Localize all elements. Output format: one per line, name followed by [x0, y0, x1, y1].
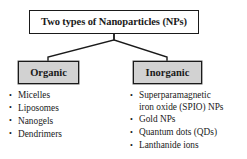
organic-item-list: Micelles Liposomes Nanogels Dendrimers [9, 90, 114, 142]
category-box-inorganic: Inorganic [133, 61, 202, 84]
list-item: Micelles [9, 90, 114, 102]
root-node-label: Two types of Nanoparticles (NPs) [41, 16, 187, 28]
inorganic-item-list: Superparamagnetic iron oxide (SPIO) NPs … [130, 90, 245, 153]
list-item: Nanogels [9, 116, 114, 128]
nanoparticle-classification-diagram: Two types of Nanoparticles (NPs) Organic… [0, 0, 247, 159]
category-label-organic: Organic [30, 67, 67, 79]
category-label-inorganic: Inorganic [146, 67, 190, 79]
list-item: Liposomes [9, 103, 114, 115]
list-item: Gold NPs [130, 114, 245, 126]
category-box-organic: Organic [18, 61, 79, 84]
list-item: Quantum dots (QDs) [130, 127, 245, 139]
list-item: Lanthanide ions [130, 140, 245, 152]
connector-root-to-inorganic [114, 34, 167, 61]
list-item: Superparamagnetic iron oxide (SPIO) NPs [130, 90, 245, 113]
root-node-title-box: Two types of Nanoparticles (NPs) [29, 10, 199, 34]
list-item: Dendrimers [9, 129, 114, 141]
connector-root-to-organic [48, 34, 114, 61]
